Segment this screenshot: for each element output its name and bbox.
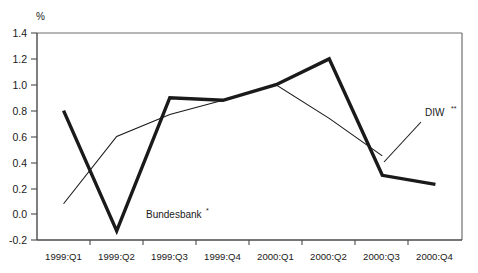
annotation-bundesbank: Bundesbank * bbox=[146, 207, 209, 220]
chart-container: % 1.4 1.2 1.0 0.8 0.6 0.4 0.2 0.0 -0.2 bbox=[0, 0, 478, 273]
x-tick-labels: 1999:Q1 1999:Q2 1999:Q3 1999:Q4 2000:Q1 … bbox=[45, 251, 453, 262]
x-tick-label: 1999:Q1 bbox=[45, 251, 82, 262]
annotation-diw-superscript: ** bbox=[451, 105, 457, 112]
x-tick-label: 2000:Q4 bbox=[416, 251, 453, 262]
y-tick-group: 1.4 1.2 1.0 0.8 0.6 0.4 0.2 0.0 -0.2 bbox=[9, 27, 37, 246]
x-tick-label: 2000:Q3 bbox=[363, 251, 400, 262]
y-tick-label: 0.6 bbox=[12, 131, 27, 143]
series-line-bundesbank bbox=[64, 59, 436, 231]
x-tick-label: 2000:Q1 bbox=[257, 251, 294, 262]
x-tick-label: 1999:Q4 bbox=[204, 251, 241, 262]
annotation-diw-label: DIW bbox=[425, 107, 445, 118]
x-tick-label: 1999:Q2 bbox=[98, 251, 135, 262]
y-tick-label: 1.0 bbox=[12, 79, 27, 91]
y-tick-label: 0.0 bbox=[12, 208, 27, 220]
series-line-diw bbox=[64, 85, 383, 204]
y-tick-label: 0.2 bbox=[12, 183, 27, 195]
diw-leader-line bbox=[384, 122, 421, 162]
x-tick-group bbox=[90, 240, 408, 245]
y-tick-label: 0.8 bbox=[12, 105, 27, 117]
y-axis-unit-label: % bbox=[36, 11, 45, 22]
y-tick-label: -0.2 bbox=[9, 234, 27, 246]
y-tick-label: 1.4 bbox=[12, 27, 27, 39]
plot-frame bbox=[37, 33, 462, 240]
annotation-diw: DIW ** bbox=[425, 105, 457, 118]
x-tick-label: 2000:Q2 bbox=[310, 251, 347, 262]
line-chart: % 1.4 1.2 1.0 0.8 0.6 0.4 0.2 0.0 -0.2 bbox=[0, 0, 478, 273]
y-tick-label: 0.4 bbox=[12, 157, 27, 169]
annotation-bundesbank-superscript: * bbox=[206, 207, 209, 214]
annotation-bundesbank-label: Bundesbank bbox=[146, 209, 203, 220]
y-tick-label: 1.2 bbox=[12, 53, 27, 65]
x-tick-label: 1999:Q3 bbox=[151, 251, 188, 262]
